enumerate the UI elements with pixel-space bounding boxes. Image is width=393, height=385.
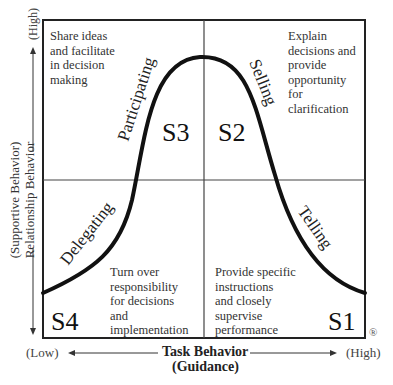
- quadrant-s1-description: Provide specific instructions and closel…: [215, 265, 296, 338]
- x-axis-high-label: (High): [346, 345, 381, 361]
- description-line: supervise: [215, 309, 296, 324]
- description-line: instructions: [215, 280, 296, 295]
- x-axis-label-task: Task Behavior: [162, 344, 248, 360]
- arrow-down-icon: [30, 328, 36, 335]
- description-line: responsibility: [110, 280, 188, 295]
- quadrant-s4-description: Turn over responsibility for decisions a…: [110, 265, 188, 338]
- stage-label-s1: S1: [328, 309, 355, 335]
- description-line: implementation: [110, 323, 188, 338]
- y-axis-label-supportive: (Supportive Behavior): [7, 142, 22, 259]
- description-line: Provide specific: [215, 265, 296, 280]
- quadrant-s2-description: Explain decisions and provide opportunit…: [288, 29, 356, 116]
- y-axis-high-label: (High): [26, 8, 40, 40]
- description-line: Share ideas: [50, 29, 115, 44]
- style-label-participating: Participating: [114, 54, 159, 143]
- description-line: opportunity: [288, 73, 356, 88]
- description-line: Explain: [288, 29, 356, 44]
- stage-label-s2: S2: [218, 120, 245, 146]
- style-label-delegating: Delegating: [56, 198, 117, 269]
- description-line: for: [288, 87, 356, 102]
- style-label-telling: Telling: [294, 202, 337, 253]
- description-line: and: [110, 309, 188, 324]
- description-line: clarification: [288, 102, 356, 117]
- description-line: in decision: [50, 58, 115, 73]
- registered-mark: ®: [369, 326, 377, 338]
- description-line: decisions and: [288, 44, 356, 59]
- arrow-up-icon: [30, 47, 36, 54]
- description-line: for decisions: [110, 294, 188, 309]
- description-line: Turn over: [110, 265, 188, 280]
- y-axis-label-relationship: Relationship Behavior: [22, 141, 37, 258]
- x-axis-label-guidance: (Guidance): [172, 359, 239, 375]
- quadrant-s3-description: Share ideas and facilitate in decision m…: [50, 29, 115, 87]
- stage-label-s3: S3: [162, 120, 189, 146]
- x-axis-low-label: (Low): [26, 345, 59, 361]
- style-label-selling: Selling: [245, 56, 281, 108]
- description-line: and facilitate: [50, 44, 115, 59]
- stage-label-s4: S4: [51, 309, 78, 335]
- arrow-left-icon: [68, 350, 75, 356]
- description-line: provide: [288, 58, 356, 73]
- description-line: performance: [215, 323, 296, 338]
- description-line: and closely: [215, 294, 296, 309]
- arrow-right-icon: [330, 350, 337, 356]
- description-line: making: [50, 73, 115, 88]
